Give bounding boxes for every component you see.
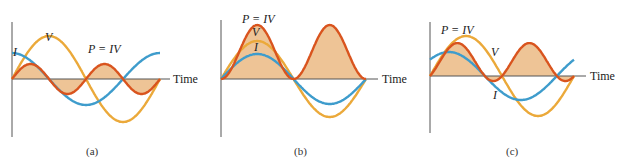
panel-c-power-label: P = IV	[440, 23, 475, 37]
panel-a-time-label: Time	[173, 72, 198, 86]
panel-c-voltage-label: V	[491, 45, 500, 59]
panel-b-power-fill	[221, 25, 366, 79]
panel-a-current-label: I	[12, 45, 18, 59]
panel-a-power-label: P = IV	[87, 42, 122, 56]
panel-a	[12, 22, 170, 137]
panel-b-time-label: Time	[382, 72, 407, 86]
panel-b-caption: (b)	[294, 145, 307, 158]
panel-c	[430, 22, 586, 133]
panel-b-power-label: P = IV	[241, 12, 276, 26]
panel-a-caption: (a)	[86, 145, 99, 158]
panel-c-time-label: Time	[590, 69, 615, 83]
ac-power-diagrams: I V P = IV Time (a) P = IV V I Time (b) …	[0, 0, 626, 164]
panel-c-current-label: I	[492, 88, 498, 102]
panel-c-caption: (c)	[506, 145, 519, 158]
panel-b	[221, 20, 378, 137]
